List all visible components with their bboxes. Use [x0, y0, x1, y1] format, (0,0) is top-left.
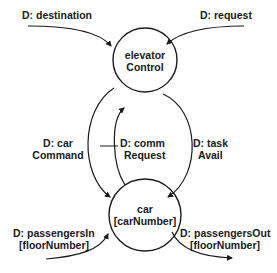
flow-task-avail-arrow: [163, 94, 192, 197]
process-elevator-control-line2: Control: [115, 61, 175, 73]
flow-destination-label: D: destination: [22, 9, 92, 21]
flow-car-command-line2: Command: [28, 149, 88, 161]
process-elevator-control-label: elevator Control: [115, 49, 175, 73]
flow-task-avail-line2: Avail: [193, 149, 228, 161]
flow-request-arrow: [167, 26, 244, 44]
flow-passengers-in-label: D: passengersIn [floorNumber]: [13, 227, 95, 251]
flow-comm-request-line2: Request: [120, 149, 165, 161]
flow-destination-arrow: [28, 26, 111, 46]
process-car-line2: [carNumber]: [105, 215, 185, 227]
flow-comm-request-label: D: comm Request: [120, 137, 165, 161]
flow-passengers-in-line2: [floorNumber]: [13, 239, 95, 251]
process-car-line1: car: [105, 203, 185, 215]
flow-passengers-out-line1: D: passengersOut: [180, 227, 270, 239]
flow-car-command-label: D: car Command: [28, 137, 88, 161]
flow-task-avail-label: D: task Avail: [193, 137, 228, 161]
flow-passengers-out-line2: [floorNumber]: [180, 239, 270, 251]
flow-car-command-arrow: [88, 88, 114, 197]
process-car-label: car [carNumber]: [105, 203, 185, 227]
flow-passengers-in-line1: D: passengersIn: [13, 227, 95, 239]
flow-comm-request-line1: D: comm: [120, 137, 165, 149]
flow-car-command-line1: D: car: [28, 137, 88, 149]
flow-request-label: D: request: [200, 9, 252, 21]
process-elevator-control-line1: elevator: [115, 49, 175, 61]
flow-task-avail-line1: D: task: [193, 137, 228, 149]
flow-passengers-out-label: D: passengersOut [floorNumber]: [180, 227, 270, 251]
